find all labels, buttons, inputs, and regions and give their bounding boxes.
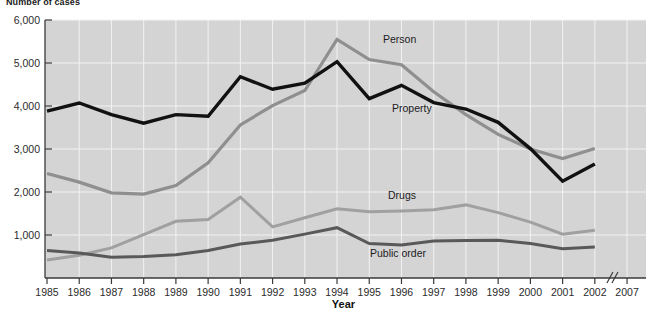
y-tick-label: 1,000	[14, 229, 40, 241]
x-tick-label: 1990	[196, 286, 220, 298]
y-axis-tick-labels: 1,0002,0003,0004,0005,0006,000	[14, 14, 40, 241]
x-tick-label: 1993	[293, 286, 317, 298]
x-tick-label: 1995	[358, 286, 382, 298]
x-axis-tick-labels: 1985198619871988198919901991199219931994…	[35, 286, 639, 298]
y-tick-label: 2,000	[14, 186, 40, 198]
x-tick-label: 1985	[35, 286, 59, 298]
x-tick-label: 1996	[390, 286, 414, 298]
series-label-drugs: Drugs	[388, 189, 416, 201]
x-axis-ticks	[47, 278, 627, 284]
x-tick-label: 1988	[132, 286, 156, 298]
x-tick-label: 2007	[615, 286, 639, 298]
chart-canvas: 1,0002,0003,0004,0005,0006,000 198519861…	[0, 0, 654, 315]
x-tick-label: 2000	[519, 286, 543, 298]
y-tick-label: 4,000	[14, 100, 40, 112]
y-tick-label: 6,000	[14, 14, 40, 26]
x-tick-label: 1991	[229, 286, 253, 298]
chart-title: Number of cases	[6, 0, 80, 7]
series-label-property: Property	[392, 102, 432, 114]
x-tick-label: 1998	[454, 286, 478, 298]
x-tick-label: 2001	[551, 286, 575, 298]
x-tick-label: 2002	[583, 286, 607, 298]
x-tick-label: 1989	[164, 286, 188, 298]
x-tick-label: 1992	[261, 286, 285, 298]
series-label-person: Person	[383, 33, 416, 45]
y-tick-label: 5,000	[14, 57, 40, 69]
x-axis-title: Year	[332, 298, 356, 310]
crime-cases-line-chart: Number of cases 1,0002,0003,0004,0005,00…	[0, 0, 654, 315]
series-label-public-order: Public order	[370, 247, 427, 259]
x-tick-label: 1987	[100, 286, 124, 298]
x-tick-label: 1986	[68, 286, 92, 298]
y-tick-label: 3,000	[14, 143, 40, 155]
x-tick-label: 1997	[422, 286, 446, 298]
x-tick-label: 1999	[486, 286, 510, 298]
x-tick-label: 1994	[325, 286, 349, 298]
